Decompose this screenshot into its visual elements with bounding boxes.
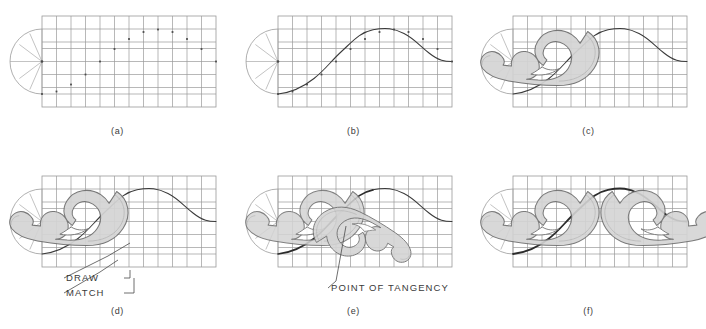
semicircle-construction-a [10, 29, 43, 94]
grid-a [42, 16, 216, 107]
semicircle-construction-b [246, 29, 279, 94]
bracket-match [124, 278, 134, 293]
panel-c: (c) [471, 0, 706, 150]
caption-a: (a) [0, 126, 235, 136]
panel-f: (f) [471, 160, 706, 329]
caption-f: (f) [471, 306, 706, 316]
grid-b [278, 16, 452, 107]
caption-b: (b) [236, 126, 471, 136]
bracket-draw [124, 270, 130, 278]
caption-c: (c) [471, 126, 706, 136]
label-match: MATCH [66, 287, 105, 298]
label-draw: DRAW [66, 272, 99, 283]
panel-e: POINT OF TANGENCY (e) [236, 160, 471, 329]
caption-e: (e) [236, 306, 471, 316]
panel-d: DRAW MATCH (d) [0, 160, 235, 329]
panel-a: (a) [0, 0, 235, 150]
panel-b: (b) [236, 0, 471, 150]
label-point-of-tangency: POINT OF TANGENCY [331, 282, 449, 293]
caption-d: (d) [0, 306, 235, 316]
french-curve-figure: (a) (b) [0, 0, 706, 329]
